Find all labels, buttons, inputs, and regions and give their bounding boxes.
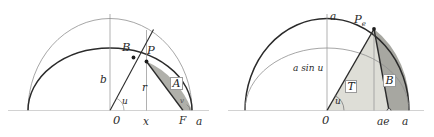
right-label-semi-major-a: a [402, 116, 408, 127]
left-label-focus-F: F [179, 115, 186, 126]
right-label-focus-abscissa-ae: ae [377, 116, 389, 127]
right-label-apex-a: a [330, 11, 336, 22]
left-label-semi-minor-b: b [100, 74, 107, 85]
right-label-angle-u: u [335, 97, 341, 106]
right-point-Pe [372, 27, 376, 31]
left-label-point-B: B [122, 42, 130, 54]
right-point-ae [387, 109, 391, 113]
right-panel-group [228, 14, 424, 114]
left-label-origin: 0 [113, 115, 120, 127]
left-label-radius-r: r [142, 82, 147, 93]
right-label-ordinate-asinu: a sin u [293, 64, 323, 73]
right-label-origin: 0 [322, 115, 329, 127]
right-label-point-Pe-main: P [354, 12, 362, 26]
left-label-semi-major-a: a [196, 116, 202, 127]
left-label-area-A: A [170, 77, 183, 90]
left-label-abscissa-x: x [143, 116, 149, 127]
figure-container: 0 x F a b r u B P A v a Pe a sin u T B u… [0, 0, 434, 137]
right-label-point-Pe-sub: e [362, 20, 366, 28]
left-label-point-P: P [147, 45, 155, 57]
left-panel-group [8, 14, 209, 114]
left-point-B [132, 56, 136, 60]
right-label-sector-B: B [383, 74, 396, 87]
right-label-triangle-T: T [345, 80, 357, 93]
left-point-P [145, 60, 149, 64]
right-label-point-Pe: Pe [354, 14, 366, 28]
figure-svg [0, 0, 434, 137]
left-label-angle-u: u [122, 97, 128, 106]
left-label-angle-v: v [180, 98, 184, 105]
